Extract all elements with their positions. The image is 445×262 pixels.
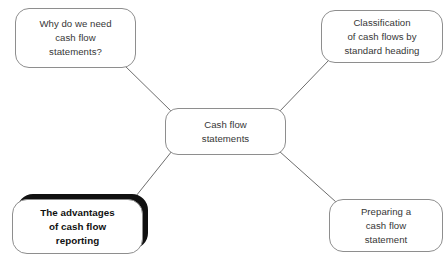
node-center-cash-flow-statements[interactable]: Cash flow statements [165,108,286,155]
connector-center-to-advantages [136,151,172,196]
connector-center-to-classification [279,60,329,112]
node-advantages-highlighted-wrapper: The advantages of cash flow reporting [12,194,148,254]
connector-center-to-why [123,64,172,112]
node-label: Classification of cash flows by standard… [340,16,425,58]
mind-map-diagram: Why do we need cash flow statements? Cla… [0,0,445,262]
node-label: Why do we need cash flow statements? [34,17,116,59]
node-advantages-of-cash-flow-reporting[interactable]: The advantages of cash flow reporting [12,199,143,254]
node-label: The advantages of cash flow reporting [35,206,120,248]
node-why-cash-flow-statements[interactable]: Why do we need cash flow statements? [15,8,136,68]
node-classification-of-cash-flows[interactable]: Classification of cash flows by standard… [321,10,443,63]
node-label: Preparing a cash flow statement [356,205,416,247]
node-label: Cash flow statements [197,118,254,146]
connector-center-to-preparing [279,151,336,202]
node-preparing-a-cash-flow-statement[interactable]: Preparing a cash flow statement [329,199,443,252]
